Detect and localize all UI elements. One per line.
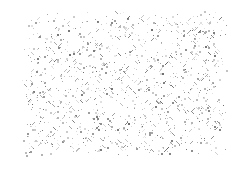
speckle-noise-texture (0, 0, 239, 171)
